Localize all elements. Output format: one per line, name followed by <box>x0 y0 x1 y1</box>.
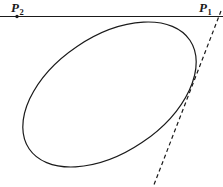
label-p1-base: P <box>199 0 207 15</box>
label-p1-subscript: 1 <box>207 7 211 17</box>
label-p2: P2 <box>11 1 24 14</box>
label-p2-subscript: 2 <box>19 7 23 17</box>
geometry-figure: P2 P1 <box>0 0 223 187</box>
ellipse-curve <box>0 0 222 187</box>
label-p2-base: P <box>11 0 19 15</box>
label-p1: P1 <box>199 1 212 14</box>
figure-canvas <box>0 0 223 187</box>
